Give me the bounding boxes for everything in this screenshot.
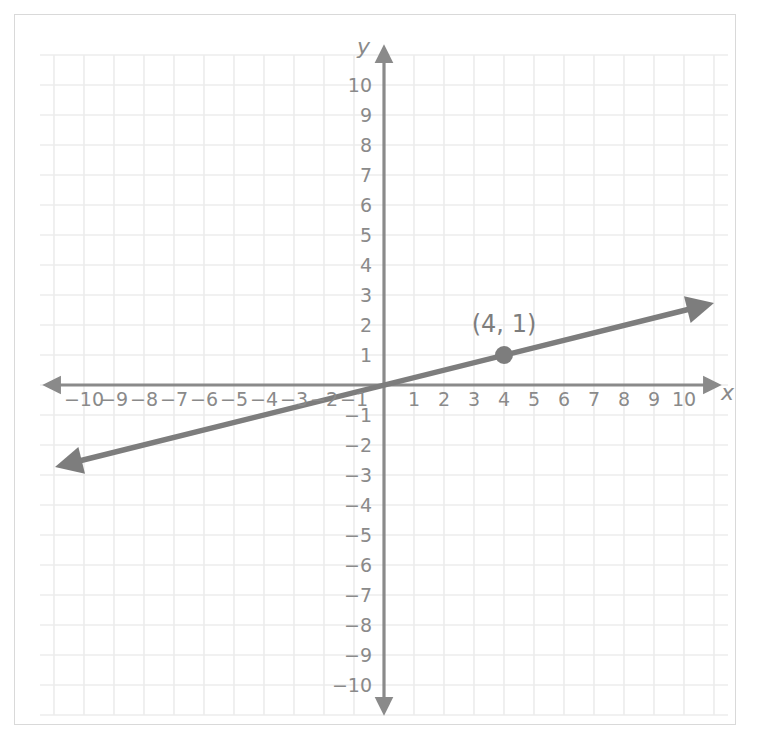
x-tick-label: 9 <box>648 388 660 410</box>
x-tick-label: 5 <box>528 388 540 410</box>
x-tick-label: 2 <box>438 388 450 410</box>
y-tick-label: 8 <box>360 134 372 156</box>
y-tick-label: −3 <box>344 464 372 486</box>
x-tick-label: −3 <box>280 388 308 410</box>
graph-figure: (4, 1) y x −10−9−8−7−6−5−4−3−2−112345678… <box>0 0 764 739</box>
y-tick-label: −10 <box>332 674 372 696</box>
y-tick-label: −9 <box>344 644 372 666</box>
y-tick-label: 5 <box>360 224 372 246</box>
x-tick-label: −2 <box>310 388 338 410</box>
x-tick-label: −9 <box>100 388 128 410</box>
y-tick-label: 2 <box>360 314 372 336</box>
x-tick-label: −8 <box>130 388 158 410</box>
y-tick-label: −4 <box>344 494 372 516</box>
y-axis-label: y <box>356 34 371 59</box>
y-tick-label: 6 <box>360 194 372 216</box>
x-axis-label: x <box>720 380 735 405</box>
x-tick-label: 3 <box>468 388 480 410</box>
y-tick-label: −6 <box>344 554 372 576</box>
x-tick-label: 10 <box>672 388 696 410</box>
x-tick-label: −6 <box>190 388 218 410</box>
y-tick-label: −2 <box>344 434 372 456</box>
y-tick-label: 3 <box>360 284 372 306</box>
x-tick-label: 7 <box>588 388 600 410</box>
x-tick-label: 1 <box>408 388 420 410</box>
y-tick-label: 9 <box>360 104 372 126</box>
y-tick-label: 10 <box>348 74 372 96</box>
x-tick-label: −10 <box>64 388 104 410</box>
x-tick-label: 8 <box>618 388 630 410</box>
y-tick-label: −5 <box>344 524 372 546</box>
x-tick-label: 4 <box>498 388 510 410</box>
x-tick-label: −4 <box>250 388 278 410</box>
y-tick-label: 1 <box>360 344 372 366</box>
y-tick-label: 7 <box>360 164 372 186</box>
coordinate-plane: (4, 1) y x −10−9−8−7−6−5−4−3−2−112345678… <box>0 0 764 739</box>
x-tick-label: −7 <box>160 388 188 410</box>
x-axis-tick-labels: −10−9−8−7−6−5−4−3−2−112345678910 <box>64 388 696 410</box>
y-tick-label: −8 <box>344 614 372 636</box>
x-tick-label: −5 <box>220 388 248 410</box>
data-point-marker <box>495 346 513 364</box>
y-tick-label: −7 <box>344 584 372 606</box>
y-tick-label: −1 <box>344 404 372 426</box>
x-tick-label: 6 <box>558 388 570 410</box>
point-label: (4, 1) <box>472 310 537 338</box>
y-tick-label: 4 <box>360 254 372 276</box>
